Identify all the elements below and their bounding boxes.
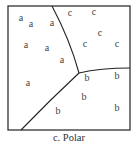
point-label-b: b: [115, 102, 120, 113]
point-label-b: b: [82, 91, 87, 102]
point-label-c: c: [115, 38, 120, 49]
point-label-b: b: [115, 70, 120, 81]
point-label-a: a: [60, 54, 65, 65]
point-label-c: c: [83, 38, 88, 49]
point-label-a: a: [50, 17, 55, 28]
point-label-c: c: [98, 27, 103, 38]
point-label-a: a: [19, 12, 24, 23]
point-labels: aaaaaaacccccbbbbb: [19, 6, 120, 116]
boundary-top: [52, 6, 79, 73]
diagram-caption: c. Polar: [0, 132, 138, 143]
point-label-c: c: [92, 6, 97, 17]
point-label-b: b: [85, 72, 90, 83]
point-label-a: a: [29, 18, 34, 29]
point-label-b: b: [56, 105, 61, 116]
point-label-a: a: [24, 39, 29, 50]
point-label-c: c: [68, 7, 73, 18]
point-label-a: a: [45, 42, 50, 53]
point-label-a: a: [26, 77, 31, 88]
polar-diagram: aaaaaaacccccbbbbb: [0, 0, 138, 147]
